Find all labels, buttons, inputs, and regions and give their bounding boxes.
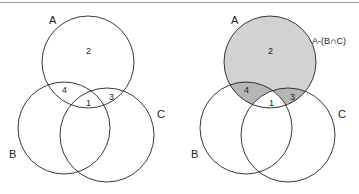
set-c-label: C <box>157 108 165 120</box>
set-a-label: A <box>49 14 57 26</box>
region-1-label: 1 <box>269 98 274 108</box>
set-a-label: A <box>231 14 239 26</box>
set-c-circle <box>60 88 154 182</box>
region-3-label: 3 <box>109 92 114 102</box>
set-a-circle <box>42 16 134 108</box>
set-b-label: B <box>9 148 16 160</box>
region-3-label: 3 <box>290 92 295 102</box>
region-4-label: 4 <box>244 85 249 95</box>
region-2-label: 2 <box>268 46 273 56</box>
set-b-circle <box>18 82 110 174</box>
region-1-label: 1 <box>86 98 91 108</box>
venn-diagrams: A B C 2 4 1 3 A B C A-(B∩C) 2 4 1 3 <box>0 0 359 194</box>
region-2-label: 2 <box>86 46 91 56</box>
set-b-label: B <box>191 148 198 160</box>
left-venn-diagram: A B C 2 4 1 3 <box>9 14 165 182</box>
set-c-label: C <box>338 108 346 120</box>
right-venn-diagram: A B C A-(B∩C) 2 4 1 3 <box>191 14 346 182</box>
region-4-label: 4 <box>62 85 67 95</box>
shaded-set-expression-label: A-(B∩C) <box>312 36 346 46</box>
